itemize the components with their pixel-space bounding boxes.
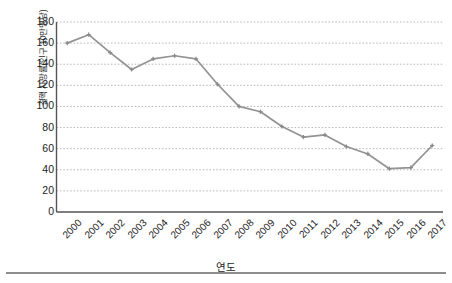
x-axis-tick-labels: 2000200120022003200420052006200720082009… — [0, 0, 452, 283]
bottom-divider-rule — [6, 272, 446, 274]
chart-figure: 결핵 사망률(인구 10만명당) 18016014012010080604020… — [0, 0, 452, 283]
